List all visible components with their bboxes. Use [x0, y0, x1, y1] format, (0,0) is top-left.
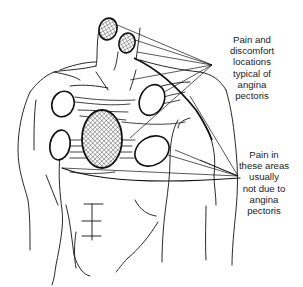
torso-outline	[18, 28, 240, 285]
typical-pain-regions	[82, 16, 137, 168]
upper-right-chest-region	[134, 80, 169, 119]
jaw-left-region	[96, 16, 119, 42]
central-chest-region	[82, 110, 122, 168]
jaw-right-region	[117, 31, 138, 54]
lower-left-chest-region	[48, 128, 73, 161]
lower-right-chest-region	[129, 130, 174, 172]
upper-left-chest-region	[48, 88, 78, 120]
typical-angina-label: Pain and discomfort locations typical of…	[212, 34, 292, 101]
atypical-pain-label: Pain in these areas usually not due to a…	[226, 149, 302, 216]
